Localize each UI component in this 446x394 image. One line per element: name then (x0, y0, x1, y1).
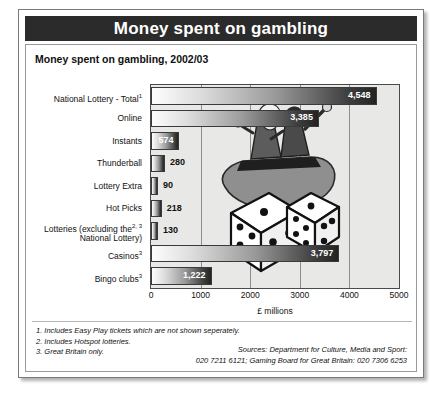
bar-value-label: 280 (170, 157, 185, 167)
sources: Sources: Department for Culture, Media a… (196, 345, 407, 366)
footnote-1: 1. Includes Easy Play tickets which are … (36, 326, 240, 337)
category-label: Bingo clubs3 (26, 272, 148, 284)
banner-title: Money spent on gambling (114, 19, 328, 39)
bar-value-label: 1,222 (183, 270, 206, 280)
bar[interactable] (151, 177, 158, 195)
category-label: Instants (26, 137, 148, 147)
bar-rows: 4,5483,385574280902181303,7971,222 (151, 85, 399, 288)
category-label: Lottery Extra (26, 182, 148, 192)
bar-row: 280 (151, 153, 399, 176)
bar[interactable] (151, 222, 158, 240)
category-label: Online (26, 114, 148, 124)
category-label: Lotteries (excluding the2, 3National Lot… (26, 222, 148, 244)
bar[interactable] (151, 200, 162, 218)
chart-panel: Money spent on gambling, 2002/03 Nationa… (25, 44, 417, 372)
screenshot-root: Money spent on gambling Money spent on g… (0, 0, 446, 394)
category-label: Thunderball (26, 159, 148, 169)
bar-value-label: 3,385 (290, 112, 313, 122)
x-tick-label: 5000 (390, 290, 409, 300)
bar-value-label: 574 (158, 135, 173, 145)
sources-line-2: 020 7211 6121; Gaming Board for Great Br… (196, 356, 407, 367)
bar-row: 1,222 (151, 265, 399, 288)
bar[interactable] (151, 87, 377, 105)
bar-row: 574 (151, 130, 399, 153)
bar-row: 3,797 (151, 243, 399, 266)
bar-row: 130 (151, 220, 399, 243)
category-label: Casinos3 (26, 249, 148, 261)
footnote-divider (32, 321, 412, 322)
chart-title: Money spent on gambling, 2002/03 (35, 53, 208, 65)
category-label: Hot Picks (26, 204, 148, 214)
x-tick-label: 2000 (241, 290, 260, 300)
plot-area: 4,5483,385574280902181303,7971,222 (150, 84, 400, 289)
x-tick-label: 0 (149, 290, 154, 300)
bar-value-label: 3,797 (311, 248, 334, 258)
category-label: National Lottery - Total1 (26, 92, 148, 104)
x-tick-label: 1000 (191, 290, 210, 300)
x-axis-title: £ millions (150, 306, 400, 316)
x-tick-label: 4000 (340, 290, 359, 300)
bar-row: 218 (151, 198, 399, 221)
sources-line-1: Sources: Department for Culture, Media a… (196, 345, 407, 356)
bar-row: 90 (151, 175, 399, 198)
bar-value-label: 90 (163, 180, 173, 190)
x-axis-ticks: 010002000300040005000 (150, 290, 400, 304)
bar-row: 4,548 (151, 85, 399, 108)
bar-value-label: 218 (167, 203, 182, 213)
category-axis-labels: National Lottery - Total1OnlineInstantsT… (32, 84, 148, 289)
bar[interactable] (151, 155, 165, 173)
banner: Money spent on gambling (25, 16, 417, 41)
bar-row: 3,385 (151, 108, 399, 131)
bar-value-label: 130 (163, 225, 178, 235)
chart-card: Money spent on gambling Money spent on g… (18, 9, 424, 378)
bar-value-label: 4,548 (348, 90, 371, 100)
x-tick-label: 3000 (290, 290, 309, 300)
gridline (399, 85, 400, 288)
